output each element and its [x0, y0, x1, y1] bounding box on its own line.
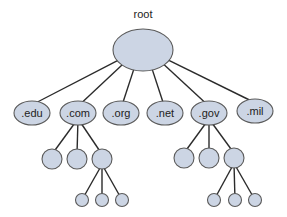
gov-host-node: [249, 194, 262, 207]
gov-subdomain-node: [224, 148, 244, 168]
edge-gov-grandchild-2: [236, 167, 252, 195]
tld-label-net: .net: [156, 107, 174, 119]
com-host-node: [96, 194, 109, 207]
root-label: root: [134, 8, 153, 20]
gov-host-node: [208, 194, 221, 207]
gov-host-node: [229, 194, 242, 207]
dns-hierarchy-diagram: root.edu.com.org.net.gov.mil: [0, 0, 287, 217]
gov-subdomain-node: [199, 148, 219, 168]
tld-label-org: .org: [112, 107, 131, 119]
com-host-node: [76, 194, 89, 207]
edges: [37, 59, 251, 195]
tld-label-mil: .mil: [246, 105, 263, 117]
tld-label-com: .com: [66, 107, 90, 119]
tree-canvas: root.edu.com.org.net.gov.mil: [0, 0, 287, 217]
edge-gov-grandchild-0: [217, 167, 232, 195]
com-subdomain-node: [67, 149, 87, 169]
com-subdomain-node: [42, 149, 62, 169]
edge-gov-child-0: [187, 124, 205, 149]
edge-root-edu: [37, 59, 120, 102]
tld-label-edu: .edu: [21, 107, 42, 119]
edge-com-grandchild-2: [104, 168, 119, 195]
edge-root-mil: [165, 59, 249, 100]
edge-com-child-2: [82, 124, 100, 150]
com-subdomain-node: [92, 149, 112, 169]
edge-gov-grandchild-1: [234, 167, 235, 195]
tld-label-gov: .gov: [199, 107, 220, 119]
com-host-node: [116, 194, 129, 207]
edge-com-child-1: [77, 124, 78, 150]
edge-gov-child-2: [213, 124, 231, 149]
root-node: [113, 29, 173, 71]
edge-root-net: [151, 67, 163, 102]
edge-com-grandchild-0: [85, 168, 100, 195]
gov-subdomain-node: [174, 148, 194, 168]
edge-root-gov: [161, 62, 204, 102]
edge-com-child-0: [55, 124, 74, 150]
edge-root-org: [123, 67, 135, 102]
